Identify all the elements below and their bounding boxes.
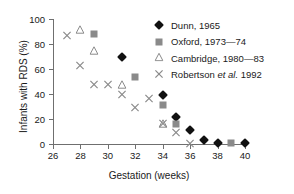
x-tick-label: 34 — [157, 150, 168, 161]
cross-marker-icon — [131, 98, 140, 116]
triangle-marker-icon — [76, 20, 85, 38]
cross-marker-icon — [62, 26, 71, 44]
x-tick-label: 40 — [240, 150, 251, 161]
cross-marker-icon — [158, 114, 167, 132]
cross-marker-icon — [145, 89, 154, 107]
legend-item: Robertson et al. 1992 — [152, 68, 264, 82]
x-tick-label: 38 — [212, 150, 223, 161]
cross-marker-icon — [117, 85, 126, 103]
square-marker-icon — [91, 31, 98, 38]
rds-gestation-scatter-chart: Gestation (weeks) Infants with RDS (%) D… — [0, 0, 294, 194]
legend-label: Robertson et al. 1992 — [171, 69, 262, 80]
cross-marker-icon — [76, 56, 85, 74]
triangle-marker-icon — [90, 41, 99, 59]
y-tick-label: 60 — [0, 64, 45, 75]
chart-legend: Dunn, 1965Oxford, 1973—74Cambridge, 1980… — [152, 18, 264, 84]
square-marker-icon — [156, 38, 163, 45]
x-axis-title: Gestation (weeks) — [53, 170, 245, 181]
x-tick-label: 36 — [185, 150, 196, 161]
y-tick-mark — [49, 144, 53, 145]
cross-marker-icon — [155, 69, 164, 80]
square-marker-icon — [228, 140, 235, 147]
legend-item: Dunn, 1965 — [152, 18, 264, 32]
x-tick-label: 30 — [103, 150, 114, 161]
legend-item: Oxford, 1973—74 — [152, 35, 264, 49]
legend-label: Cambridge, 1980—83 — [171, 53, 264, 64]
y-tick-label: 20 — [0, 114, 45, 125]
x-tick-label: 32 — [130, 150, 141, 161]
cross-marker-icon — [90, 75, 99, 93]
x-tick-label: 26 — [48, 150, 59, 161]
diamond-marker-icon — [213, 138, 223, 148]
legend-label: Oxford, 1973—74 — [171, 36, 246, 47]
legend-marker — [152, 69, 166, 81]
x-tick-label: 28 — [75, 150, 86, 161]
cross-marker-icon — [172, 123, 181, 141]
legend-marker — [152, 36, 166, 48]
diamond-marker-icon — [158, 90, 168, 100]
cross-marker-icon — [103, 75, 112, 93]
y-tick-label: 40 — [0, 89, 45, 100]
diamond-marker-icon — [117, 52, 127, 62]
legend-label: Dunn, 1965 — [171, 20, 220, 31]
legend-item: Cambridge, 1980—83 — [152, 51, 264, 65]
y-tick-label: 100 — [0, 14, 45, 25]
diamond-marker-icon — [154, 20, 164, 30]
legend-marker — [152, 19, 166, 31]
x-tick-mark — [53, 145, 54, 149]
y-tick-label: 80 — [0, 39, 45, 50]
x-tick-mark — [80, 145, 81, 149]
square-marker-icon — [132, 73, 139, 80]
diamond-marker-icon — [199, 135, 209, 145]
square-marker-icon — [159, 102, 166, 109]
y-tick-label: 0 — [0, 139, 45, 150]
x-tick-mark — [108, 145, 109, 149]
legend-marker — [152, 52, 166, 64]
x-tick-mark — [163, 145, 164, 149]
diamond-marker-icon — [240, 138, 250, 148]
triangle-marker-icon — [155, 53, 164, 64]
x-tick-mark — [135, 145, 136, 149]
